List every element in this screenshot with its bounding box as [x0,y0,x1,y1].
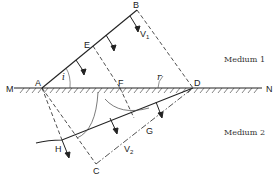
label-d: D [194,78,201,88]
ray-ef [93,46,120,88]
label-c: C [93,166,100,176]
wavelet-arc-f [105,99,149,111]
wavelet-arc-a [77,92,98,138]
ray-cd [96,88,193,164]
refraction-diagram: M N A B C D E F G H i r V1 V2 Medium 1 M… [0,0,279,177]
refracted-wavefront-hd [36,88,193,143]
velocity-label-v1: V1 [140,29,150,40]
label-a: A [35,78,41,88]
label-b: B [133,0,139,10]
label-n: N [266,84,273,94]
medium-2-label: Medium 2 [224,128,265,137]
boundary-hatching [20,88,258,93]
ray-ah [42,88,62,140]
label-g: G [146,126,153,136]
angle-label-i: i [62,72,65,82]
label-m: M [6,84,14,94]
angle-arc-i [66,68,70,88]
label-h: H [55,144,62,154]
medium-1-label: Medium 1 [224,55,265,64]
label-e: E [84,40,90,50]
label-f: F [118,78,124,88]
velocity-label-v2: V2 [124,144,134,155]
angle-label-r: r [157,72,162,82]
ray-bd [137,10,193,88]
